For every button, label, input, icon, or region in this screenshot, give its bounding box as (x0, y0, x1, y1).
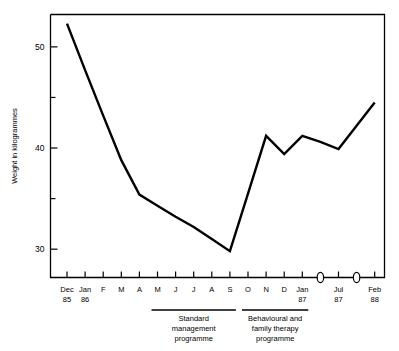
x-axis-label-primary: Feb (368, 285, 381, 294)
axis-break-marker (317, 272, 323, 282)
frame-rect (51, 15, 385, 278)
x-axis-labels: Dec85Jan86FMAMJJASONDJan87Jul87Feb88 (60, 285, 381, 304)
x-axis-label-primary: M (154, 285, 160, 294)
x-axis-label-primary: A (209, 285, 214, 294)
y-axis-label: 50 (35, 42, 45, 52)
x-axis-label-year: 88 (371, 295, 379, 304)
x-axis-label-primary: A (137, 285, 142, 294)
x-axis-ticks (67, 272, 375, 278)
programme-annotations: StandardmanagementprogrammeBehavioural a… (152, 310, 309, 343)
x-axis-label-year: 87 (334, 295, 342, 304)
annotation-label-standard-management: programme (175, 334, 213, 343)
chart-canvas: 304050 Weight in kilogrammes Dec85Jan86F… (0, 0, 399, 351)
weight-chart: 304050 Weight in kilogrammes Dec85Jan86F… (0, 0, 399, 351)
x-axis-label-primary: M (118, 285, 124, 294)
x-axis-label-primary: O (245, 285, 251, 294)
x-axis-label-primary: D (281, 285, 287, 294)
x-axis-label-primary: Dec (60, 285, 74, 294)
y-axis-label: 40 (35, 143, 45, 153)
axis-break-marker (353, 272, 359, 282)
x-axis-label-year: 87 (298, 295, 306, 304)
x-axis-label-primary: J (174, 285, 178, 294)
weight-line (67, 24, 375, 252)
series-group (67, 24, 375, 252)
annotation-label-behavioural-family-therapy: family therapy (252, 324, 299, 333)
x-axis-label-primary: F (101, 285, 106, 294)
annotation-label-behavioural-family-therapy: programme (256, 334, 294, 343)
x-axis-label-primary: Jan (296, 285, 308, 294)
x-axis-label-primary: J (192, 285, 196, 294)
y-axis-label: 30 (35, 244, 45, 254)
annotation-label-behavioural-family-therapy: Behavioural and (248, 314, 302, 323)
plot-frame (51, 15, 385, 278)
x-axis-label-primary: S (227, 285, 232, 294)
x-axis-label-year: 86 (81, 295, 89, 304)
x-axis-label-primary: Jul (334, 285, 344, 294)
x-axis-label-primary: Jan (79, 285, 91, 294)
x-axis-label-year: 85 (63, 295, 71, 304)
y-axis-title: Weight in kilogrammes (10, 108, 19, 184)
annotation-label-standard-management: Standard (178, 314, 208, 323)
y-axis-ticks (51, 47, 58, 249)
annotation-label-standard-management: management (172, 324, 217, 333)
y-axis-labels: 304050 (35, 42, 45, 254)
x-axis-label-primary: N (263, 285, 268, 294)
